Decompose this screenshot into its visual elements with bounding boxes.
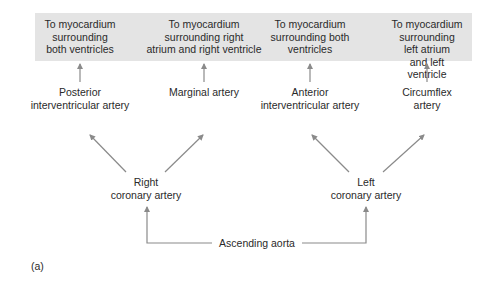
arrow-elbow-icon	[302, 207, 366, 243]
arrow-elbow-icon	[147, 207, 212, 243]
arrow-diagonal-icon	[165, 135, 203, 172]
arrow-diagonal-icon	[90, 135, 126, 172]
arrow-diagonal-icon	[383, 135, 424, 172]
arrow-diagonal-icon	[312, 135, 349, 172]
arrow-layer	[0, 0, 499, 281]
